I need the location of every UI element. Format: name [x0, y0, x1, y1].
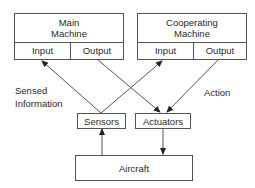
aircraft-box: Aircraft [75, 155, 193, 181]
cooperating-machine-title-line2: Machine [138, 28, 246, 39]
main-machine-output-port: Output [71, 45, 123, 56]
arrow-main-output-to-actuators [98, 60, 160, 112]
sensors-box: Sensors [77, 113, 126, 129]
main-machine-title-line1: Main [15, 17, 123, 28]
cooperating-machine-output-port: Output [194, 45, 246, 56]
sensed-information-line1: Sensed [15, 84, 63, 97]
main-machine-title-line2: Machine [15, 28, 123, 39]
cooperating-machine-input-port: Input [138, 45, 193, 56]
main-machine-box: Main Machine Input Output [14, 13, 124, 60]
aircraft-label: Aircraft [76, 163, 192, 174]
cooperating-machine-title-line1: Cooperating [138, 17, 246, 28]
cooperating-machine-title: Cooperating Machine [138, 17, 246, 39]
sensors-label: Sensors [78, 116, 125, 127]
cooperating-machine-divider [138, 42, 246, 43]
main-machine-divider [15, 42, 123, 43]
sensed-information-line2: Information [15, 97, 63, 110]
action-label: Action [204, 86, 230, 99]
main-machine-title: Main Machine [15, 17, 123, 39]
main-machine-input-port: Input [15, 45, 70, 56]
arrow-sensors-to-cooperating-input [101, 61, 162, 113]
sensed-information-label: Sensed Information [15, 84, 63, 110]
actuators-box: Actuators [135, 113, 191, 129]
actuators-label: Actuators [136, 116, 190, 127]
cooperating-machine-box: Cooperating Machine Input Output [137, 13, 247, 60]
